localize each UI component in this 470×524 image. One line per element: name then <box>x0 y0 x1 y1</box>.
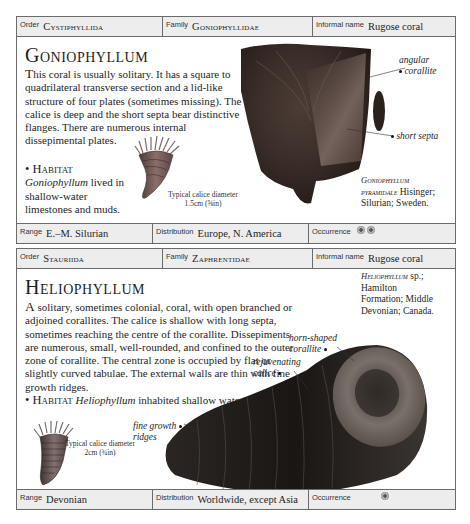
occurrence-cell: Occurrence <box>309 490 455 509</box>
occurrence-label: Occurrence <box>312 227 351 236</box>
entry-card-heliophyllum: Order Stauriida Family Zaphrentidae Info… <box>16 248 456 510</box>
range-cell: Range Devonian <box>17 490 153 509</box>
specimen-label: Goniophyllum pyramidale Hisinger; Siluri… <box>361 175 455 210</box>
range-cell: Range E.–M. Silurian <box>17 224 153 243</box>
range-label: Range <box>20 227 42 236</box>
range-label: Range <box>20 493 42 502</box>
annotation-short-septa: short septa <box>391 131 438 142</box>
distribution-value: Worldwide, except Asia <box>198 494 298 505</box>
distribution-cell: Distribution Worldwide, except Asia <box>153 490 309 509</box>
range-value: Devonian <box>46 494 87 505</box>
entry-card-goniophyllum: Order Cystiphyllida Family Goniophyllida… <box>16 16 456 244</box>
occurrence-label: Occurrence <box>312 493 351 502</box>
distribution-label: Distribution <box>156 227 194 236</box>
distribution-value: Europe, N. America <box>198 228 282 239</box>
range-value: E.–M. Silurian <box>46 228 108 239</box>
range-footer: Range Devonian Distribution Worldwide, e… <box>17 489 455 509</box>
distribution-cell: Distribution Europe, N. America <box>153 224 309 243</box>
occurrence-marker-icon <box>381 492 389 500</box>
occurrence-marker-icon <box>367 226 375 234</box>
distribution-label: Distribution <box>156 493 194 502</box>
occurrence-cell: Occurrence <box>309 224 455 243</box>
specimen-label: Heliophyllum sp.; Hamilton Formation; Mi… <box>361 271 455 317</box>
pointer-dot <box>391 135 394 138</box>
range-footer: Range E.–M. Silurian Distribution Europe… <box>17 223 455 243</box>
occurrence-marker-icon <box>357 226 365 234</box>
